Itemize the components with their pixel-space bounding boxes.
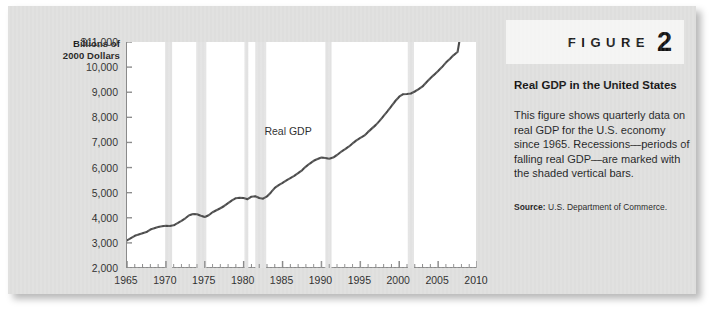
y-axis-tick-label: 10,000 <box>24 62 118 72</box>
recession-band <box>255 42 266 268</box>
plot-area <box>126 42 476 268</box>
chart-block: Billions of 2000 Dollars $11,00010,0009,… <box>24 14 484 286</box>
recession-bands <box>165 42 414 268</box>
y-axis-tick-label: 7,000 <box>24 137 118 147</box>
y-axis-tick-label: 9,000 <box>24 87 118 97</box>
x-axis-tick-label: 1980 <box>223 275 263 285</box>
x-axis-tick-label: 1965 <box>106 275 146 285</box>
caption-title: Real GDP in the United States <box>514 78 686 92</box>
caption-panel: FIGURE 2 Real GDP in the United States T… <box>506 6 696 294</box>
figure-screenshot: Billions of 2000 Dollars $11,00010,0009,… <box>0 0 720 309</box>
source-text: U.S. Department of Commerce. <box>548 202 667 212</box>
x-axis-tick-marks <box>127 261 477 268</box>
x-axis-tick-label: 2000 <box>378 275 418 285</box>
source-note: Source: U.S. Department of Commerce. <box>514 202 689 214</box>
y-axis-tick-label: 5,000 <box>24 188 118 198</box>
recession-band <box>165 42 172 268</box>
figure-banner: FIGURE 2 <box>506 20 684 64</box>
caption-body: This figure shows quarterly data on real… <box>514 108 692 181</box>
source-label: Source: <box>514 202 546 212</box>
y-axis-tick-label: 2,000 <box>24 263 118 273</box>
x-axis-tick-label: 2005 <box>417 275 457 285</box>
recession-band <box>196 42 206 268</box>
real-gdp-annotation: Real GDP <box>264 125 311 137</box>
y-axis-tick-label: $11,000 <box>24 37 118 47</box>
y-axis-tick-marks <box>127 42 132 268</box>
x-axis-tick-label: 1975 <box>184 275 224 285</box>
recession-band <box>244 42 248 268</box>
y-axis-tick-label: 4,000 <box>24 213 118 223</box>
recession-band <box>325 42 331 268</box>
x-axis-tick-label: 1990 <box>300 275 340 285</box>
y-axis-tick-label: 3,000 <box>24 238 118 248</box>
gdp-line-chart <box>127 42 477 268</box>
x-axis-tick-label: 2010 <box>456 275 496 285</box>
figure-number: 2 <box>657 29 672 56</box>
x-axis-tick-label: 1970 <box>145 275 185 285</box>
y-axis-tick-label: 8,000 <box>24 112 118 122</box>
figure-word: FIGURE <box>568 35 650 50</box>
recession-band <box>408 42 414 268</box>
y-axis-tick-label: 6,000 <box>24 163 118 173</box>
x-axis-tick-label: 1985 <box>262 275 302 285</box>
x-axis-tick-label: 1995 <box>339 275 379 285</box>
figure-card: Billions of 2000 Dollars $11,00010,0009,… <box>8 6 696 294</box>
